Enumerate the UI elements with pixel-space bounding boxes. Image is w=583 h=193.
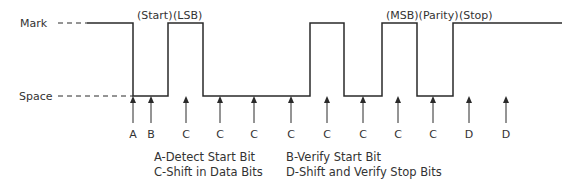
sample-arrow-c: C [394, 96, 402, 141]
serial-waveform [87, 23, 562, 96]
sample-letter: D [502, 128, 510, 141]
sample-arrow-c: C [250, 96, 258, 141]
legend-right: B-Verify Start Bit D-Shift and Verify St… [286, 150, 442, 180]
arrow-up-icon [430, 96, 436, 103]
arrow-up-icon [395, 96, 401, 103]
sample-letter: C [250, 128, 258, 141]
sample-arrow-d: D [465, 96, 473, 141]
sample-arrow-c: C [359, 96, 367, 141]
legend-a: A-Detect Start Bit [154, 150, 263, 165]
legend-c: C-Shift in Data Bits [154, 165, 263, 180]
space-label: Space [19, 90, 53, 103]
sample-letter: C [287, 128, 295, 141]
sample-letter: A [129, 128, 137, 141]
arrow-up-icon [288, 96, 294, 103]
sample-letter: B [147, 128, 155, 141]
arrow-up-icon [360, 96, 366, 103]
sample-letter: C [182, 128, 190, 141]
sample-arrow-c: C [216, 96, 224, 141]
sample-arrow-a: A [129, 96, 137, 141]
sample-letter: C [394, 128, 402, 141]
bit-label: (Start) [137, 9, 172, 22]
bit-label: (LSB) [173, 9, 202, 22]
bit-labels: (Start)(LSB)(MSB)(Parity)(Stop) [137, 9, 493, 22]
sample-letter: C [323, 128, 331, 141]
arrow-up-icon [466, 96, 472, 103]
arrow-up-icon [217, 96, 223, 103]
sample-arrow-c: C [182, 96, 190, 141]
arrow-up-icon [503, 96, 509, 103]
sample-arrow-b: B [147, 96, 155, 141]
sample-arrow-c: C [287, 96, 295, 141]
sample-letter: C [429, 128, 437, 141]
arrow-up-icon [130, 96, 136, 103]
arrow-up-icon [324, 96, 330, 103]
level-labels: Mark Space [19, 17, 133, 103]
sample-point-arrows: ABCCCCCCCCDD [129, 96, 510, 141]
sample-letter: D [465, 128, 473, 141]
arrow-up-icon [251, 96, 257, 103]
legend-b: B-Verify Start Bit [286, 150, 442, 165]
bit-label: (Stop) [459, 9, 493, 22]
bit-label: (MSB)(Parity) [386, 9, 458, 22]
sample-letter: C [216, 128, 224, 141]
sample-arrow-c: C [429, 96, 437, 141]
legend-left: A-Detect Start Bit C-Shift in Data Bits [154, 150, 263, 180]
sample-letter: C [359, 128, 367, 141]
legend-d: D-Shift and Verify Stop Bits [286, 165, 442, 180]
sample-arrow-c: C [323, 96, 331, 141]
sample-arrow-d: D [502, 96, 510, 141]
arrow-up-icon [183, 96, 189, 103]
mark-label: Mark [20, 17, 48, 30]
arrow-up-icon [148, 96, 154, 103]
